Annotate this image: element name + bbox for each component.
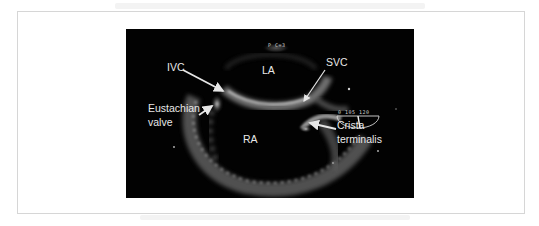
label-ra: RA	[243, 133, 258, 145]
faint-bleed-text-top-1	[115, 3, 425, 9]
top-marker: P C=3	[268, 42, 286, 48]
label-eustachian-line1: Eustachian	[148, 102, 200, 114]
label-eustachian-line2: valve	[148, 116, 173, 128]
label-ivc: IVC	[167, 61, 185, 73]
label-svc: SVC	[326, 56, 348, 68]
ivc-arrow	[183, 70, 223, 91]
angle-readout: 0 105 120	[338, 109, 370, 115]
label-la: LA	[262, 64, 275, 76]
label-crista-line2: terminalis	[337, 133, 382, 145]
label-crista-line1: Crista	[337, 119, 364, 131]
faint-bleed-text-bottom	[140, 215, 410, 220]
echo-image-panel: P C=3 0 105 120 IVC LA SVC Eustachian va…	[126, 29, 414, 198]
